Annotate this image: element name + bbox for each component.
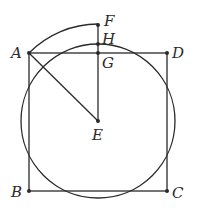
point-d — [165, 51, 169, 55]
point-f — [96, 23, 100, 27]
point-e — [96, 119, 100, 123]
arc-af — [29, 24, 98, 53]
label-a: A — [9, 44, 22, 62]
point-a — [27, 51, 31, 55]
label-e: E — [91, 126, 103, 144]
label-c: C — [172, 184, 184, 202]
point-b — [27, 189, 31, 193]
point-g — [96, 51, 100, 55]
point-h — [96, 42, 100, 46]
geometry-diagram: A B C D E F G H — [0, 0, 197, 208]
segment-ae — [29, 53, 98, 121]
label-f: F — [103, 12, 115, 30]
label-g: G — [102, 54, 114, 72]
label-b: B — [10, 183, 22, 201]
label-h: H — [101, 30, 116, 48]
point-c — [165, 189, 169, 193]
label-d: D — [171, 44, 184, 62]
